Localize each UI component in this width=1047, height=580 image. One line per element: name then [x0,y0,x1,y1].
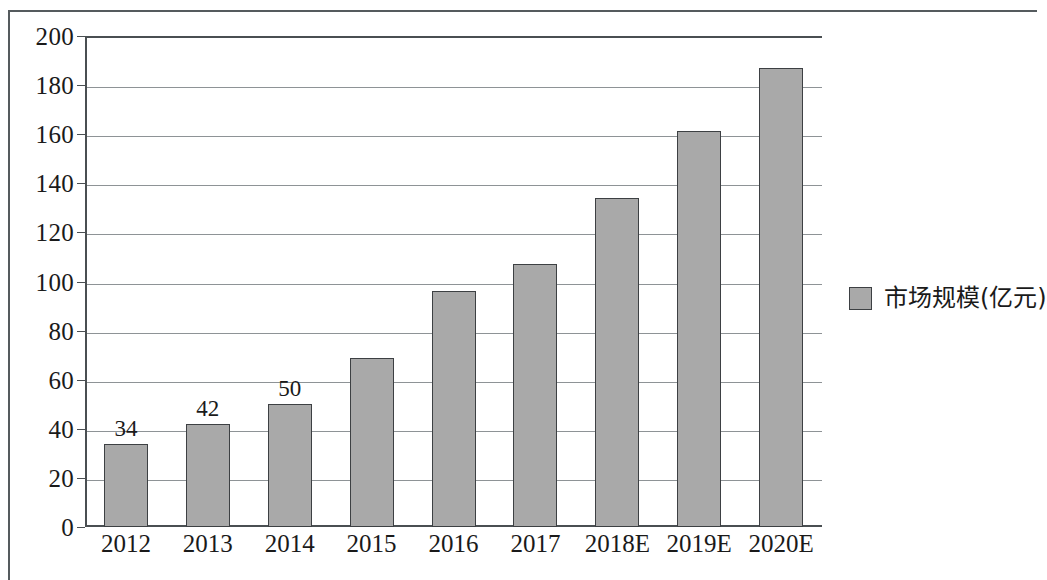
bar-value-label-2014: 50 [278,377,301,400]
y-axis-tick-mark [77,527,85,528]
bar-slot: 42 [167,36,249,527]
x-axis-tick-slot: 2016 [413,531,495,556]
y-axis-tick-mark [77,478,85,479]
legend: 市场规模(亿元) [849,286,1047,310]
bar-2015 [350,358,394,527]
x-axis-tick-label-2017: 2017 [510,530,560,557]
x-axis-tick-label-2016: 2016 [429,530,479,557]
bar-slot [576,36,658,527]
x-axis-tick-label-2019E: 2019E [667,530,732,557]
x-axis-tick-slot: 2018E [576,531,658,556]
bar-2014 [268,404,312,527]
bar-2012 [104,444,148,527]
bar-2017 [513,264,557,527]
bar-2020E [759,68,803,527]
bar-2016 [432,291,476,527]
bars-layer: 344250 [85,36,822,527]
y-axis-tick-marks [0,36,85,527]
x-axis-tick-slot: 2020E [740,531,822,556]
y-axis-tick-mark [77,380,85,381]
bar-slot [413,36,495,527]
y-axis-tick-mark [77,134,85,135]
x-axis-tick-slot: 2017 [494,531,576,556]
bar-2013 [186,424,230,527]
x-axis-tick-label-2013: 2013 [183,530,233,557]
legend-swatch-market-size [849,287,872,310]
x-axis-tick-label-2014: 2014 [265,530,315,557]
x-axis-tick-slot: 2015 [331,531,413,556]
bar-slot [494,36,576,527]
y-axis-tick-mark [77,183,85,184]
bar-value-label-2013: 42 [196,397,219,420]
y-axis-tick-mark [77,36,85,37]
legend-label-market-size: 市场规模(亿元) [884,286,1047,310]
y-axis-tick-mark [77,282,85,283]
x-axis-tick-slot: 2019E [658,531,740,556]
x-axis-tick-slot: 2014 [249,531,331,556]
y-axis-tick-mark [77,85,85,86]
x-axis-tick-label-2015: 2015 [347,530,397,557]
bar-2019E [677,131,721,527]
bar-slot: 34 [85,36,167,527]
y-axis-tick-mark [77,331,85,332]
x-axis-tick-label-2018E: 2018E [585,530,650,557]
bar-slot: 50 [249,36,331,527]
bar-2018E [595,198,639,527]
y-axis-tick-mark [77,429,85,430]
bar-slot [740,36,822,527]
x-axis-tick-label-2020E: 2020E [748,530,813,557]
x-axis-tick-labels: 2012201320142015201620172018E2019E2020E [85,531,822,556]
x-axis-tick-slot: 2013 [167,531,249,556]
y-axis-tick-mark [77,232,85,233]
bar-slot [331,36,413,527]
bar-value-label-2012: 34 [114,417,137,440]
x-axis-tick-slot: 2012 [85,531,167,556]
bar-slot [658,36,740,527]
x-axis-tick-label-2012: 2012 [101,530,151,557]
